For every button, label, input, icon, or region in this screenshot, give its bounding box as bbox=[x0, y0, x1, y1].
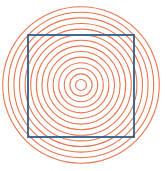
ring-circle bbox=[76, 80, 87, 91]
ring-circle bbox=[20, 24, 143, 147]
illusion-figure bbox=[0, 0, 166, 171]
ring-circle bbox=[64, 68, 97, 101]
ring-circle bbox=[31, 35, 132, 136]
ring-circle bbox=[48, 52, 115, 119]
concentric-circles bbox=[3, 7, 160, 164]
ring-circle bbox=[59, 63, 104, 108]
illusion-canvas bbox=[0, 0, 166, 171]
ring-circle bbox=[36, 40, 125, 129]
ring-circle bbox=[3, 7, 160, 164]
ring-circle bbox=[14, 18, 148, 152]
ring-circle bbox=[70, 74, 92, 96]
ring-circle bbox=[53, 57, 109, 113]
